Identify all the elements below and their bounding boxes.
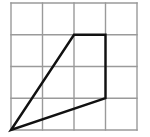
grid-figure-svg [0, 0, 150, 137]
figure-background [0, 0, 150, 137]
figure-container [0, 0, 150, 137]
